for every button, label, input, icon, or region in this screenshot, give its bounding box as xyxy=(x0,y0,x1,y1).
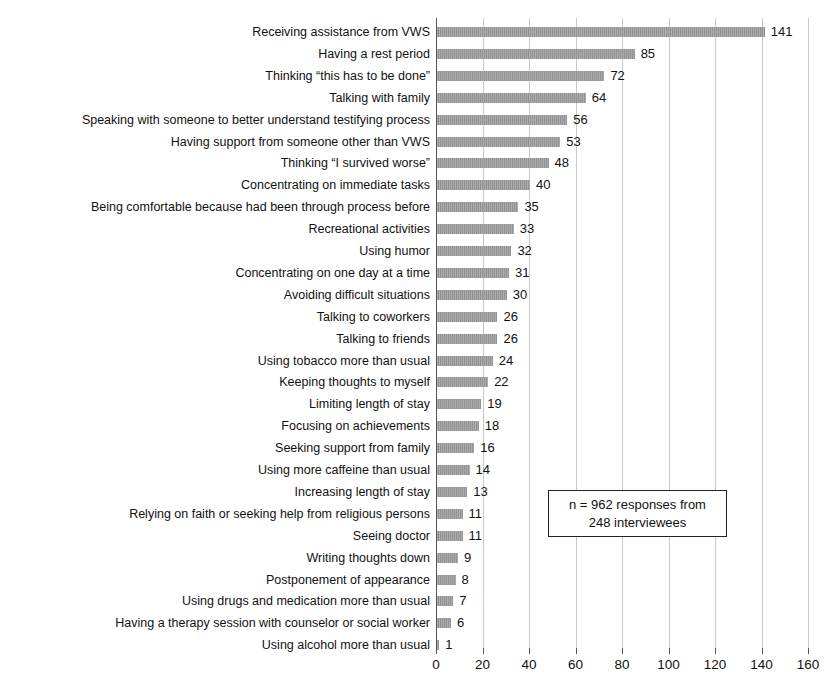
category-label: Receiving assistance from VWS xyxy=(0,21,430,43)
bar-row: Talking with family64 xyxy=(0,87,825,109)
bar-row: Having support from someone other than V… xyxy=(0,131,825,153)
category-label: Limiting length of stay xyxy=(0,393,430,415)
bar-value-label: 26 xyxy=(503,328,517,350)
bar-value-label: 22 xyxy=(494,371,508,393)
tick-mark-0 xyxy=(436,648,437,654)
bar xyxy=(437,334,497,344)
tick-label: 100 xyxy=(657,655,680,675)
bar-value-label: 48 xyxy=(555,152,569,174)
category-label: Having a rest period xyxy=(0,43,430,65)
bar xyxy=(437,312,497,322)
bar-row: Having a rest period85 xyxy=(0,43,825,65)
bar-row: Using more caffeine than usual14 xyxy=(0,459,825,481)
bar-row: Using drugs and medication more than usu… xyxy=(0,590,825,612)
bar-value-label: 141 xyxy=(771,21,793,43)
bar xyxy=(437,268,509,278)
bar-value-label: 35 xyxy=(524,196,538,218)
category-label: Seeing doctor xyxy=(0,525,430,547)
bar-row: Using tobacco more than usual24 xyxy=(0,350,825,372)
bar xyxy=(437,290,507,300)
bar-value-label: 9 xyxy=(464,547,471,569)
tick-label: 120 xyxy=(704,655,727,675)
bar-value-label: 72 xyxy=(610,65,624,87)
tick-label: 0 xyxy=(432,655,440,675)
tick-label: 140 xyxy=(750,655,773,675)
bar xyxy=(437,618,451,628)
category-label: Writing thoughts down xyxy=(0,547,430,569)
category-label: Talking with family xyxy=(0,87,430,109)
tick-mark-80 xyxy=(622,648,623,654)
bar-value-label: 16 xyxy=(480,437,494,459)
tick-label: 80 xyxy=(614,655,629,675)
category-label: Having a therapy session with counselor … xyxy=(0,612,430,634)
bar-value-label: 13 xyxy=(473,481,487,503)
bar-value-label: 6 xyxy=(457,612,464,634)
bar-row: Focusing on achievements18 xyxy=(0,415,825,437)
bar-value-label: 40 xyxy=(536,174,550,196)
bar xyxy=(437,553,458,563)
bar-row: Thinking “this has to be done”72 xyxy=(0,65,825,87)
category-label: Thinking “this has to be done” xyxy=(0,65,430,87)
bar-row: Postponement of appearance8 xyxy=(0,569,825,591)
category-label: Keeping thoughts to myself xyxy=(0,371,430,393)
bar-row: Keeping thoughts to myself22 xyxy=(0,371,825,393)
category-label: Using tobacco more than usual xyxy=(0,350,430,372)
category-label: Seeking support from family xyxy=(0,437,430,459)
bar-value-label: 30 xyxy=(513,284,527,306)
bar-value-label: 64 xyxy=(592,87,606,109)
bar-value-label: 7 xyxy=(459,590,466,612)
bar-row: Talking to friends26 xyxy=(0,328,825,350)
category-label: Talking to friends xyxy=(0,328,430,350)
bar-row: Avoiding difficult situations30 xyxy=(0,284,825,306)
category-label: Using drugs and medication more than usu… xyxy=(0,590,430,612)
bar-value-label: 85 xyxy=(641,43,655,65)
category-label: Avoiding difficult situations xyxy=(0,284,430,306)
tick-mark-60 xyxy=(576,648,577,654)
bar xyxy=(437,27,765,37)
bar-row: Limiting length of stay19 xyxy=(0,393,825,415)
bar xyxy=(437,224,514,234)
bar-row: Using alcohol more than usual1 xyxy=(0,634,825,656)
bar-row: Seeking support from family16 xyxy=(0,437,825,459)
bar xyxy=(437,399,481,409)
bar xyxy=(437,246,511,256)
tick-label: 60 xyxy=(568,655,583,675)
category-label: Increasing length of stay xyxy=(0,481,430,503)
bar-value-label: 18 xyxy=(485,415,499,437)
bar-row: Using humor32 xyxy=(0,240,825,262)
bar-value-label: 1 xyxy=(445,634,452,656)
bar-value-label: 11 xyxy=(469,525,483,547)
category-label: Speaking with someone to better understa… xyxy=(0,109,430,131)
bar xyxy=(437,465,470,475)
x-axis-tick-labels: 020406080100120140160 xyxy=(0,655,825,679)
bar xyxy=(437,137,560,147)
category-label: Relying on faith or seeking help from re… xyxy=(0,503,430,525)
bar xyxy=(437,575,456,585)
bar xyxy=(437,509,463,519)
bar xyxy=(437,49,635,59)
bar-row: Recreational activities33 xyxy=(0,218,825,240)
bar-value-label: 19 xyxy=(487,393,501,415)
category-label: Thinking “I survived worse” xyxy=(0,152,430,174)
bar xyxy=(437,596,453,606)
bar xyxy=(437,640,439,650)
bar-row: Receiving assistance from VWS141 xyxy=(0,21,825,43)
bar-chart: Receiving assistance from VWS141Having a… xyxy=(0,0,825,694)
category-label: Talking to coworkers xyxy=(0,306,430,328)
category-label: Using alcohol more than usual xyxy=(0,634,430,656)
bar-value-label: 14 xyxy=(476,459,490,481)
bar xyxy=(437,487,467,497)
bar-value-label: 33 xyxy=(520,218,534,240)
bar xyxy=(437,356,493,366)
bar xyxy=(437,443,474,453)
bar-row: Concentrating on one day at a time31 xyxy=(0,262,825,284)
tick-label: 20 xyxy=(475,655,490,675)
bar xyxy=(437,377,488,387)
bar-value-label: 32 xyxy=(517,240,531,262)
bar-value-label: 53 xyxy=(566,131,580,153)
tick-mark-120 xyxy=(715,648,716,654)
category-label: Using humor xyxy=(0,240,430,262)
bar xyxy=(437,202,518,212)
tick-label: 40 xyxy=(521,655,536,675)
category-label: Focusing on achievements xyxy=(0,415,430,437)
